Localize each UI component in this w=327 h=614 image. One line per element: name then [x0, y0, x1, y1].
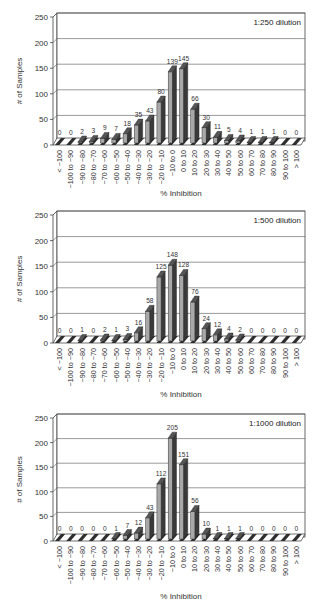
data-label: 10 [202, 520, 210, 527]
chart-1-500-dilution: 050100150200250# of Samples1:500 dilutio… [0, 200, 327, 405]
bar-front [146, 518, 150, 539]
data-label: 3 [92, 127, 96, 134]
bar-front [202, 128, 206, 143]
data-label: 0 [69, 129, 73, 136]
x-tick-label: −10 to 0 [168, 150, 177, 176]
x-tick-label: 20 to 30 [202, 150, 211, 176]
data-label: 0 [249, 525, 253, 532]
data-label: 80 [157, 88, 165, 95]
x-tick-label: 60 to 70 [247, 348, 256, 374]
x-tick-label: 20 to 30 [202, 546, 211, 572]
bar [157, 96, 165, 143]
y-tick-label: 200 [35, 237, 49, 246]
bar-front [134, 533, 138, 539]
data-label: 0 [295, 327, 299, 334]
x-tick-label: −90 to −80 [78, 150, 87, 184]
data-label: 0 [283, 525, 287, 532]
x-tick-label: −60 to −50 [112, 150, 121, 184]
bar [168, 66, 176, 143]
x-tick-label: −20 to −10 [157, 546, 166, 580]
x-tick-label: 80 to 90 [269, 348, 278, 374]
y-tick-label: 150 [35, 64, 49, 73]
x-tick-label: 60 to 70 [247, 150, 256, 176]
x-tick-label: −10 to 0 [168, 546, 177, 572]
data-label: 66 [191, 95, 199, 102]
bar [191, 505, 199, 539]
bar-front [191, 511, 195, 539]
bar-front [134, 125, 138, 143]
bar [191, 103, 199, 143]
data-label: 7 [114, 125, 118, 132]
bar-front [134, 333, 138, 341]
x-tick-label: −80 to −70 [89, 546, 98, 580]
data-label: 5 [227, 126, 231, 133]
bar [191, 296, 199, 341]
data-label: 18 [124, 120, 132, 127]
x-tick-label: −30 to −20 [145, 150, 154, 184]
data-label: 0 [92, 327, 96, 334]
data-label: 1 [261, 128, 265, 135]
y-tick-label: 0 [44, 141, 49, 150]
bar-side [195, 103, 199, 143]
x-tick-label: 10 to 20 [190, 546, 199, 572]
data-label: 12 [135, 519, 143, 526]
data-label: 128 [178, 261, 189, 268]
y-tick-label: 250 [35, 211, 49, 220]
bar-side [195, 296, 199, 341]
x-tick-label: −50 to −40 [123, 150, 132, 184]
y-tick-label: 250 [35, 414, 49, 423]
x-axis-label: % Inhibition [160, 592, 201, 601]
y-tick-label: 50 [39, 512, 48, 521]
chart-1-1000-dilution: 050100150200250# of Samples1:1000 diluti… [0, 405, 327, 614]
bar-side [172, 432, 176, 539]
bar-front [123, 536, 127, 539]
data-label: 11 [214, 123, 221, 130]
data-label: 0 [80, 525, 84, 532]
x-tick-label: 60 to 70 [247, 546, 256, 572]
data-label: 151 [178, 451, 189, 458]
bar-side [184, 269, 188, 341]
x-tick-label: −70 to −60 [100, 150, 109, 184]
data-label: 0 [261, 525, 265, 532]
y-axis-label: # of Samples [15, 256, 24, 303]
x-tick-label: −30 to −20 [145, 348, 154, 382]
data-label: 0 [295, 129, 299, 136]
data-label: 1 [238, 525, 242, 532]
bar-front [213, 335, 217, 341]
data-label: 58 [146, 297, 154, 304]
data-label: 4 [238, 127, 242, 134]
data-label: 0 [103, 525, 107, 532]
x-axis-label: % Inhibition [160, 189, 201, 198]
x-tick-label: 90 to 100 [281, 348, 290, 378]
x-tick-label: < −100 [55, 150, 64, 172]
bar-front [123, 339, 127, 341]
x-tick-label: −20 to −10 [157, 348, 166, 382]
y-tick-label: 250 [35, 13, 49, 22]
bar-side [161, 478, 165, 539]
bar-front [225, 339, 229, 341]
data-label: 24 [202, 315, 210, 322]
data-label: 0 [283, 129, 287, 136]
bar [168, 259, 176, 341]
x-tick-label: −60 to −50 [112, 546, 121, 580]
bar-side [161, 96, 165, 143]
bar-front [112, 139, 116, 143]
data-label: 0 [283, 327, 287, 334]
data-label: 125 [156, 263, 167, 270]
x-tick-label: 30 to 40 [213, 150, 222, 176]
data-label: 7 [125, 522, 129, 529]
data-label: 30 [202, 114, 210, 121]
bar [179, 459, 187, 539]
data-label: 16 [135, 319, 143, 326]
data-label: 35 [135, 111, 143, 118]
x-tick-label: 50 to 60 [236, 348, 245, 374]
y-tick-label: 100 [35, 90, 49, 99]
y-tick-label: 100 [35, 488, 49, 497]
data-label: 4 [227, 325, 231, 332]
x-tick-label: 50 to 60 [236, 150, 245, 176]
bar-front [146, 311, 150, 341]
bar [146, 115, 154, 143]
bar-front [168, 265, 172, 341]
bar-front [168, 72, 172, 143]
x-tick-label: 0 to 10 [179, 150, 188, 172]
